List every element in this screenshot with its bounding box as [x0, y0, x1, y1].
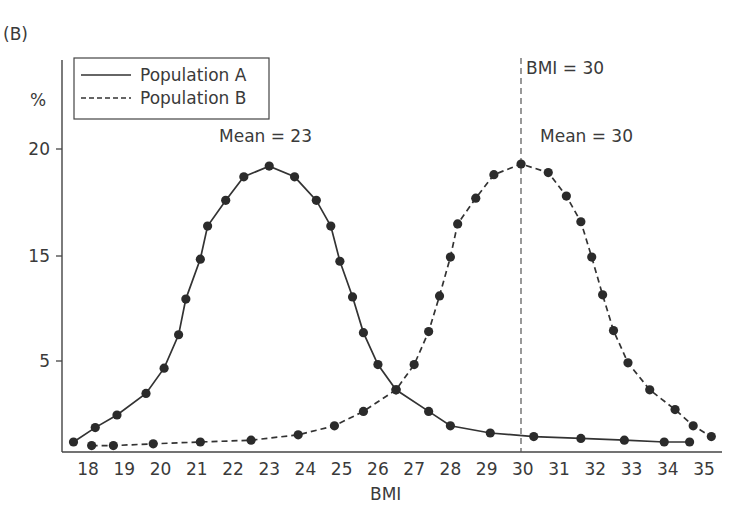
data-point-marker — [181, 294, 190, 303]
data-point-marker — [348, 292, 357, 301]
x-tick-label: 34 — [657, 459, 679, 479]
data-point-marker — [196, 437, 205, 446]
data-point-marker — [562, 191, 571, 200]
x-tick-label: 20 — [150, 459, 172, 479]
x-tick-label: 28 — [440, 459, 462, 479]
y-axis-unit: % — [30, 90, 46, 110]
x-tick-label: 22 — [222, 459, 244, 479]
data-point-marker — [685, 437, 694, 446]
data-point-marker — [645, 385, 654, 394]
panel-label: (B) — [3, 24, 28, 44]
data-point-marker — [424, 407, 433, 416]
bmi-distribution-chart: (B) % BMI 20155 181920212223242526272829… — [0, 0, 735, 522]
data-point-marker — [576, 434, 585, 443]
data-point-marker — [446, 421, 455, 430]
data-point-marker — [290, 172, 299, 181]
data-point-marker — [330, 421, 339, 430]
x-tick-label: 33 — [621, 459, 643, 479]
x-tick-label: 23 — [258, 459, 280, 479]
y-tick-label: 15 — [28, 246, 50, 266]
data-point-marker — [141, 389, 150, 398]
data-point-marker — [149, 439, 158, 448]
data-point-marker — [196, 255, 205, 264]
data-point-marker — [707, 432, 716, 441]
data-point-marker — [87, 441, 96, 450]
data-point-marker — [174, 330, 183, 339]
data-point-marker — [69, 437, 78, 446]
population-a-line — [74, 166, 690, 442]
data-point-marker — [471, 194, 480, 203]
data-point-marker — [91, 423, 100, 432]
data-point-marker — [529, 432, 538, 441]
x-tick-label: 29 — [476, 459, 498, 479]
data-point-marker — [160, 364, 169, 373]
data-point-marker — [294, 430, 303, 439]
x-tick-label: 31 — [548, 459, 570, 479]
legend: Population A Population B — [74, 58, 269, 119]
x-axis-title: BMI — [370, 484, 401, 504]
data-point-marker — [312, 196, 321, 205]
data-point-marker — [391, 385, 400, 394]
mean-b-label: Mean = 30 — [540, 126, 633, 146]
data-point-marker — [373, 360, 382, 369]
y-tick-label: 20 — [28, 139, 50, 159]
data-point-marker — [489, 170, 498, 179]
data-point-marker — [109, 441, 118, 450]
x-tick-label: 25 — [331, 459, 353, 479]
data-point-marker — [326, 221, 335, 230]
x-tick-label: 32 — [585, 459, 607, 479]
data-point-marker — [587, 252, 596, 261]
x-ticks: 181920212223242526272829303132333435 — [77, 459, 715, 479]
data-point-marker — [203, 221, 212, 230]
mean-a-label: Mean = 23 — [219, 126, 312, 146]
data-point-marker — [660, 437, 669, 446]
x-tick-label: 18 — [77, 459, 99, 479]
data-point-marker — [486, 428, 495, 437]
data-point-marker — [576, 217, 585, 226]
x-tick-label: 21 — [186, 459, 208, 479]
data-point-marker — [424, 327, 433, 336]
x-tick-label: 26 — [367, 459, 389, 479]
x-tick-label: 24 — [295, 459, 317, 479]
legend-label-b: Population B — [140, 88, 246, 108]
data-point-marker — [609, 326, 618, 335]
x-tick-label: 35 — [693, 459, 715, 479]
data-point-marker — [359, 328, 368, 337]
data-point-marker — [623, 358, 632, 367]
data-point-marker — [620, 436, 629, 445]
data-point-marker — [516, 159, 525, 168]
data-point-marker — [335, 257, 344, 266]
data-point-marker — [446, 252, 455, 261]
x-tick-label: 27 — [403, 459, 425, 479]
data-point-marker — [598, 290, 607, 299]
y-ticks: 20155 — [28, 139, 62, 371]
data-point-marker — [265, 162, 274, 171]
data-point-marker — [239, 172, 248, 181]
data-point-marker — [359, 407, 368, 416]
data-point-marker — [670, 405, 679, 414]
data-point-marker — [689, 421, 698, 430]
data-point-marker — [453, 219, 462, 228]
data-point-marker — [246, 436, 255, 445]
legend-label-a: Population A — [140, 65, 247, 85]
data-point-marker — [544, 168, 553, 177]
y-tick-label: 5 — [39, 351, 50, 371]
series-group — [69, 159, 716, 450]
data-point-marker — [221, 196, 230, 205]
data-point-marker — [410, 360, 419, 369]
ref-line-label: BMI = 30 — [526, 58, 604, 78]
x-tick-label: 30 — [512, 459, 534, 479]
data-point-marker — [112, 410, 121, 419]
x-tick-label: 19 — [113, 459, 135, 479]
data-point-marker — [435, 291, 444, 300]
